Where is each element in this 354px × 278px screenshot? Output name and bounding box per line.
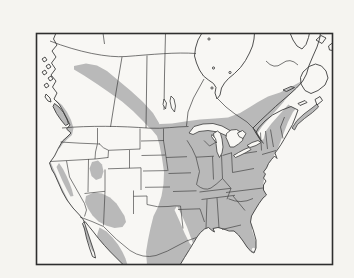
range-map-svg: [0, 0, 354, 278]
range-map-figure: [0, 0, 354, 278]
